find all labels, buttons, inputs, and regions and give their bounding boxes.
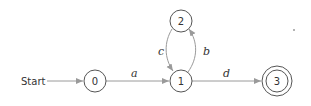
state-0: 0 bbox=[84, 70, 106, 92]
state-3-accepting: 3 bbox=[262, 66, 292, 96]
edge-2-1 bbox=[166, 29, 173, 71]
state-1-label: 1 bbox=[178, 76, 184, 87]
edge-1-2 bbox=[188, 29, 196, 72]
stray-dot bbox=[293, 29, 295, 31]
edge-label-a: a bbox=[131, 67, 138, 80]
state-2: 2 bbox=[170, 10, 192, 32]
start-label: Start bbox=[21, 76, 46, 87]
state-0-label: 0 bbox=[92, 76, 98, 87]
state-2-label: 2 bbox=[178, 16, 184, 27]
state-3-label: 3 bbox=[274, 76, 280, 87]
edge-label-b: b bbox=[203, 45, 210, 58]
edge-label-c: c bbox=[158, 45, 164, 58]
automaton-diagram: Start a b c d 0 1 2 3 bbox=[0, 0, 311, 106]
state-1: 1 bbox=[170, 70, 192, 92]
edge-label-d: d bbox=[223, 67, 230, 80]
